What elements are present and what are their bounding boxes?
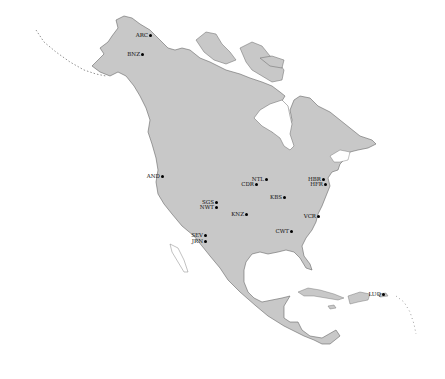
site-dot-icon [255,183,258,186]
site-dot-icon [215,206,218,209]
site-dot-icon [283,196,286,199]
site-dot-icon [265,178,268,181]
site-marker-and: AND [147,173,164,179]
site-marker-hfr: HFR [310,181,327,187]
site-marker-knz: KNZ [231,211,248,217]
site-dot-icon [161,175,164,178]
site-dot-icon [204,234,207,237]
site-dot-icon [290,230,293,233]
site-dot-icon [317,215,320,218]
site-dot-icon [382,293,385,296]
site-dot-icon [324,183,327,186]
site-dot-icon [245,213,248,216]
site-marker-jrn: JRN [192,238,207,244]
site-label: BNZ [127,51,140,57]
site-marker-kbs: KBS [270,194,286,200]
site-marker-bnz: BNZ [127,51,144,57]
site-label: CWT [275,228,289,234]
site-label: CDR [241,181,254,187]
site-marker-nwt: NWT [200,204,218,210]
gulf-of-california [170,244,188,272]
lesser-antilles [396,296,416,334]
cuba [298,288,344,300]
site-label: KBS [270,194,282,200]
site-label: NWT [200,204,214,210]
site-marker-cdr: CDR [241,181,258,187]
site-marker-arc: ARC [136,32,152,38]
hispaniola [348,292,370,304]
site-marker-vcr: VCR [304,213,320,219]
site-label: LUQ [369,291,382,297]
jamaica [328,305,336,309]
site-label: JRN [192,238,203,244]
north-america-map [0,0,445,379]
site-dot-icon [141,53,144,56]
site-marker-luq: LUQ [369,291,386,297]
site-marker-cwt: CWT [275,228,293,234]
site-label: ARC [136,32,148,38]
site-dot-icon [149,34,152,37]
aleutian-islands [36,30,106,76]
site-label: AND [147,173,160,179]
site-label: HFR [310,181,323,187]
site-label: KNZ [231,211,244,217]
site-dot-icon [204,240,207,243]
site-label: VCR [304,213,316,219]
